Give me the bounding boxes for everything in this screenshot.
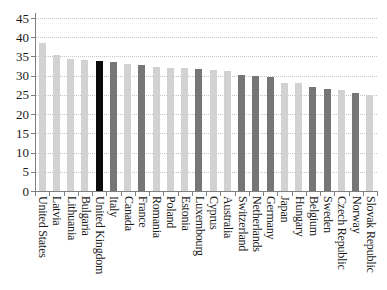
x-axis-label-czech-republic: Czech Republic (335, 196, 348, 270)
bar-luxembourg (195, 69, 202, 191)
y-axis-label: 0 (0, 184, 29, 199)
y-axis-label: 45 (0, 11, 29, 26)
x-axis-label-netherlands: Netherlands (249, 196, 262, 252)
gridline-40 (35, 37, 377, 38)
bar-germany (267, 77, 274, 191)
x-axis-label-slovak-republic: Slovak Republic (363, 196, 376, 273)
x-axis-label-japan: Japan (278, 196, 291, 222)
y-axis-label: 5 (0, 164, 29, 179)
bar-canada (124, 64, 131, 191)
gridline-35 (35, 56, 377, 57)
x-axis-label-lithuania: Lithuania (64, 196, 77, 240)
bar-france (138, 65, 145, 191)
x-axis-label-italy: Italy (107, 196, 120, 217)
x-axis-label-cyprus: Cyprus (207, 196, 220, 229)
x-axis-label-bulgaria: Bulgaria (78, 196, 91, 236)
bar-united-states (39, 43, 46, 191)
y-axis-label: 15 (0, 126, 29, 141)
bar-czech-republic (338, 90, 345, 191)
bar-estonia (181, 68, 188, 191)
x-axis-label-belgium: Belgium (306, 196, 319, 236)
bar-hungary (295, 83, 302, 191)
gridline-45 (35, 18, 377, 19)
x-axis-label-united-kingdom: United Kingdom (93, 196, 106, 274)
bar-poland (167, 68, 174, 191)
x-axis-label-canada: Canada (121, 196, 134, 231)
bar-switzerland (238, 75, 245, 191)
x-axis-label-poland: Poland (164, 196, 177, 228)
x-axis-label-latvia: Latvia (50, 196, 63, 225)
y-axis-label: 25 (0, 87, 29, 102)
bar-slovak-republic (366, 95, 373, 191)
x-axis-label-sweden: Sweden (321, 196, 334, 233)
bar-sweden (324, 89, 331, 191)
y-axis-label: 10 (0, 145, 29, 160)
x-axis-label-romania: Romania (150, 196, 163, 238)
bar-chart: 051015202530354045United StatesLatviaLit… (0, 0, 387, 290)
x-axis-label-luxembourg: Luxembourg (192, 196, 205, 256)
x-axis-label-france: France (135, 196, 148, 227)
y-axis-label: 40 (0, 30, 29, 45)
bar-australia (224, 71, 231, 191)
y-axis-label: 30 (0, 68, 29, 83)
bar-cyprus (210, 70, 217, 191)
x-axis-label-norway: Norway (349, 196, 362, 233)
bar-romania (153, 67, 160, 191)
bar-belgium (309, 87, 316, 191)
x-axis-label-hungary: Hungary (292, 196, 305, 237)
bar-japan (281, 83, 288, 191)
y-axis-label: 35 (0, 49, 29, 64)
x-axis-label-united-states: United States (36, 196, 49, 258)
x-axis-label-australia: Australia (221, 196, 234, 238)
x-axis-label-germany: Germany (264, 196, 277, 239)
bar-norway (352, 93, 359, 191)
y-axis-line (35, 13, 36, 191)
bar-bulgaria (81, 60, 88, 191)
x-axis-label-switzerland: Switzerland (235, 196, 248, 251)
bar-lithuania (67, 59, 74, 191)
x-axis-label-estonia: Estonia (178, 196, 191, 231)
bar-united-kingdom (96, 61, 103, 191)
y-axis-label: 20 (0, 107, 29, 122)
bar-latvia (53, 55, 60, 191)
bar-italy (110, 62, 117, 191)
bar-netherlands (252, 76, 259, 191)
